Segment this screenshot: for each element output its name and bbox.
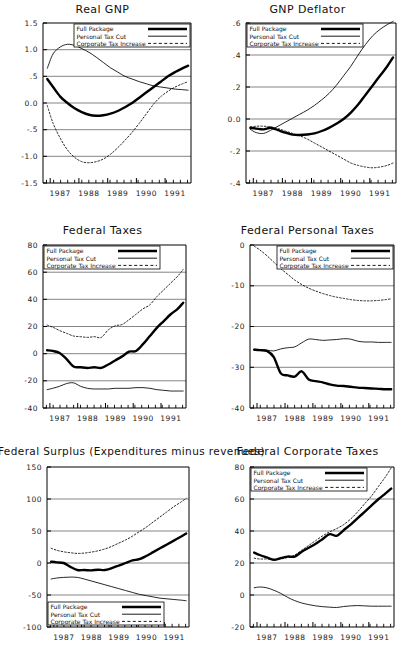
- chart-svg-real-gnp: 1.51.0.50.0-.5-1.0-1.5198719881989199019…: [0, 0, 205, 220]
- y-tick-label: -20: [231, 322, 245, 331]
- series-line-full-package: [47, 303, 183, 368]
- y-tick-label: 100: [26, 495, 42, 504]
- y-tick-label: 0: [240, 591, 245, 600]
- y-tick-label: 60: [234, 495, 245, 504]
- series-line-personal-tax-cut: [47, 44, 188, 90]
- x-tick-label: 1989: [311, 189, 333, 198]
- y-tick-label: -20: [24, 376, 38, 385]
- x-tick-label: 1988: [284, 414, 306, 423]
- chart-panel-real-gnp: Real GNP1.51.0.50.0-.5-1.0-1.51987198819…: [0, 0, 205, 220]
- y-tick-label: .5: [30, 72, 38, 81]
- x-tick-label: 1987: [53, 633, 75, 642]
- series-line-personal-tax-cut: [47, 383, 183, 391]
- chart-svg-federal-corporate-taxes: 806040200-2019871988198919901991Full Pac…: [205, 440, 410, 669]
- series-line-personal-tax-cut: [254, 587, 391, 608]
- y-tick-label: -100: [23, 623, 42, 632]
- y-tick-label: -1.0: [21, 152, 38, 161]
- series-line-corporate-tax-increase: [47, 82, 188, 163]
- y-tick-label: -.4: [230, 179, 241, 188]
- legend-label: Corporate Tax Increase: [254, 484, 323, 492]
- chart-panel-gnp-deflator: GNP Deflator.6.4.20.0-.2-.41987198819891…: [205, 0, 410, 220]
- legend-label: Personal Tax Cut: [77, 33, 127, 40]
- x-tick-label: 1991: [164, 189, 186, 198]
- x-tick-label: 1987: [49, 189, 71, 198]
- legend-label: Personal Tax Cut: [250, 33, 300, 40]
- y-tick-label: 0.0: [228, 115, 241, 124]
- y-tick-label: .2: [233, 83, 241, 92]
- x-tick-label: 1990: [132, 414, 154, 423]
- series-line-corporate-tax-increase: [250, 126, 393, 168]
- x-tick-label: 1989: [107, 189, 129, 198]
- y-tick-label: -.5: [27, 125, 38, 134]
- y-tick-label: -40: [24, 404, 38, 413]
- x-tick-label: 1989: [312, 414, 334, 423]
- chart-panel-federal-surplus: Federal Surplus (Expenditures minus reve…: [0, 440, 205, 669]
- chart-svg-federal-surplus: 150100500-50-10019871988198919901991Full…: [0, 440, 205, 669]
- chart-title-federal-corporate-taxes: Federal Corporate Taxes: [205, 445, 410, 458]
- y-tick-label: 0: [240, 241, 245, 250]
- x-tick-label: 1988: [81, 633, 103, 642]
- chart-title-federal-personal-taxes: Federal Personal Taxes: [205, 224, 410, 237]
- series-line-corporate-tax-increase: [47, 269, 183, 337]
- y-tick-label: -20: [231, 623, 245, 632]
- series-line-full-package: [254, 350, 391, 390]
- chart-panel-federal-corporate-taxes: Federal Corporate Taxes806040200-2019871…: [205, 440, 410, 669]
- x-tick-label: 1990: [136, 189, 158, 198]
- chart-svg-gnp-deflator: .6.4.20.0-.2-.419871988198919901991Full …: [205, 0, 410, 220]
- x-tick-label: 1989: [312, 633, 334, 642]
- x-tick-label: 1988: [78, 189, 100, 198]
- chart-panel-federal-taxes: Federal Taxes806040200-20-40198719881989…: [0, 220, 205, 440]
- series-line-full-package: [47, 66, 188, 116]
- chart-svg-federal-personal-taxes: 0-10-20-30-4019871988198919901991Full Pa…: [205, 220, 410, 440]
- legend-label: Personal Tax Cut: [280, 255, 330, 262]
- legend-label: Corporate Tax Increase: [250, 40, 319, 48]
- legend-label: Corporate Tax Increase: [77, 40, 146, 48]
- x-tick-label: 1991: [368, 633, 390, 642]
- y-tick-label: 0: [37, 559, 42, 568]
- legend-label: Corporate Tax Increase: [51, 618, 120, 626]
- y-tick-label: 50: [31, 527, 42, 536]
- legend-label: Corporate Tax Increase: [280, 262, 349, 270]
- legend-label: Corporate Tax Increase: [47, 262, 116, 270]
- x-tick-label: 1989: [108, 633, 130, 642]
- x-tick-label: 1987: [256, 633, 278, 642]
- y-tick-label: 1.0: [25, 45, 38, 54]
- y-tick-label: 20: [27, 322, 38, 331]
- x-tick-label: 1991: [163, 633, 185, 642]
- y-tick-label: -.2: [230, 147, 241, 156]
- chart-svg-federal-taxes: 806040200-20-4019871988198919901991Full …: [0, 220, 205, 440]
- series-line-full-package: [250, 57, 393, 135]
- y-tick-label: 150: [26, 463, 42, 472]
- x-tick-label: 1991: [369, 189, 391, 198]
- y-tick-label: .4: [233, 51, 241, 60]
- y-tick-label: 1.5: [25, 19, 38, 28]
- chart-title-federal-surplus: Federal Surplus (Expenditures minus reve…: [0, 445, 213, 457]
- y-tick-label: 60: [27, 268, 38, 277]
- x-tick-label: 1991: [368, 414, 390, 423]
- y-tick-label: 40: [27, 295, 38, 304]
- y-tick-label: -1.5: [21, 179, 38, 188]
- x-tick-label: 1987: [256, 414, 278, 423]
- x-tick-label: 1990: [340, 189, 362, 198]
- x-tick-label: 1990: [136, 633, 158, 642]
- x-tick-label: 1988: [282, 189, 304, 198]
- chart-title-real-gnp: Real GNP: [0, 3, 205, 16]
- y-tick-label: 0: [33, 349, 38, 358]
- y-tick-label: 80: [27, 241, 38, 250]
- x-tick-label: 1991: [160, 414, 182, 423]
- x-tick-label: 1989: [105, 414, 127, 423]
- chart-panel-federal-personal-taxes: Federal Personal Taxes0-10-20-30-4019871…: [205, 220, 410, 440]
- x-tick-label: 1988: [284, 633, 306, 642]
- x-tick-label: 1987: [49, 414, 71, 423]
- series-line-personal-tax-cut: [51, 577, 186, 601]
- series-line-personal-tax-cut: [254, 339, 391, 351]
- y-tick-label: 40: [234, 527, 245, 536]
- figure-sheet: Real GNP1.51.0.50.0-.5-1.0-1.51987198819…: [0, 0, 410, 669]
- series-line-full-package: [51, 534, 186, 571]
- y-tick-label: 0.0: [25, 99, 38, 108]
- y-tick-label: -10: [231, 281, 245, 290]
- y-tick-label: .6: [233, 19, 241, 28]
- chart-title-gnp-deflator: GNP Deflator: [205, 3, 410, 16]
- y-tick-label: -50: [28, 591, 42, 600]
- legend-label: Personal Tax Cut: [254, 477, 304, 484]
